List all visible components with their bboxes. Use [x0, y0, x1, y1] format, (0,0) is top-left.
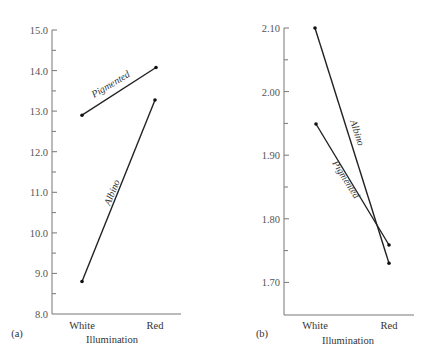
chart-b-xcat-white: White — [302, 320, 328, 331]
chart-a-ytick: 15.0 — [30, 25, 48, 36]
figure: 15.0 14.0 13.0 12.0 11.0 10.0 9.0 8.0 Wh… — [0, 0, 431, 359]
chart-a-ticks — [52, 30, 57, 294]
chart-b-point — [387, 243, 391, 247]
chart-a-xcat-white: White — [69, 320, 95, 331]
chart-b-xlabel: Illumination — [322, 335, 375, 346]
chart-b-point — [314, 122, 318, 126]
chart-a-ytick: 9.0 — [35, 268, 48, 279]
chart-a-ytick: 13.0 — [30, 106, 48, 117]
chart-a: 15.0 14.0 13.0 12.0 11.0 10.0 9.0 8.0 Wh… — [11, 25, 181, 345]
chart-a-point — [153, 98, 157, 102]
chart-b-ytick: 1.90 — [262, 150, 280, 161]
chart-a-ytick: 12.0 — [30, 147, 48, 158]
chart-b: 2.10 2.00 1.90 1.80 1.70 White Red Illum… — [256, 23, 414, 346]
chart-a-ytick: 10.0 — [30, 228, 48, 239]
chart-a-label-albino: Albino — [101, 178, 122, 208]
chart-b-ticks — [284, 28, 289, 282]
chart-b-ytick: 1.80 — [262, 214, 280, 225]
chart-b-series-albino — [315, 28, 389, 263]
chart-b-ytick: 2.10 — [262, 23, 280, 34]
chart-a-xcat-red: Red — [147, 320, 165, 331]
chart-b-xcat-red: Red — [381, 320, 399, 331]
chart-b-point — [313, 26, 317, 30]
chart-a-xlabel: Illumination — [86, 334, 139, 345]
chart-a-ytick: 14.0 — [30, 66, 48, 77]
chart-b-point — [387, 262, 391, 266]
chart-a-point — [154, 66, 158, 70]
chart-a-ytick: 11.0 — [30, 187, 48, 198]
chart-b-ytick: 2.00 — [262, 87, 280, 98]
chart-a-ytick: 8.0 — [35, 309, 48, 320]
chart-b-ytick: 1.70 — [262, 277, 280, 288]
chart-a-point — [80, 113, 84, 117]
chart-b-panel-label: (b) — [256, 328, 269, 340]
chart-a-series-albino — [82, 100, 155, 282]
chart-a-point — [80, 280, 84, 284]
chart-a-label-pigmented: Pigmented — [89, 68, 133, 100]
chart-a-panel-label: (a) — [11, 328, 23, 340]
